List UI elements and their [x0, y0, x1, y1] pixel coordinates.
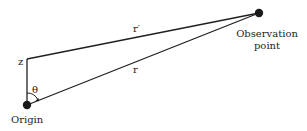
r-line — [27, 13, 259, 105]
observation-label-line1: Observation — [236, 28, 298, 39]
r-prime-label: r′ — [133, 23, 141, 34]
origin-dot — [23, 101, 31, 109]
geometry-diagram: z θ r′ r Origin Observation point — [0, 0, 307, 131]
r-label: r — [133, 64, 138, 75]
theta-label: θ — [32, 84, 38, 95]
origin-label: Origin — [11, 114, 44, 125]
z-label: z — [18, 56, 23, 67]
r-prime-line — [27, 13, 259, 59]
observation-label-line2: point — [254, 40, 280, 51]
observation-point-dot — [255, 9, 263, 17]
